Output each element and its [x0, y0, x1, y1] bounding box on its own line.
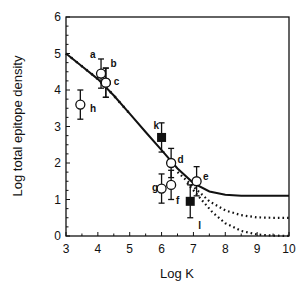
- point-label: f: [176, 195, 180, 206]
- filled-square-marker: [186, 197, 195, 206]
- curve-model-dotted-low: [187, 183, 289, 236]
- y-tick-label: 5: [54, 47, 61, 61]
- chart: 3456789100123456 abchkdgfel Log K Log to…: [0, 0, 303, 294]
- open-circle-marker: [167, 180, 176, 189]
- x-tick-label: 5: [126, 242, 133, 256]
- filled-square-marker: [157, 133, 166, 142]
- data-point-d: d: [167, 148, 184, 177]
- data-point-h: h: [76, 90, 96, 119]
- x-tick-label: 7: [190, 242, 197, 256]
- data-point-g: g: [152, 174, 166, 203]
- point-label: l: [198, 220, 201, 231]
- x-tick-label: 9: [254, 242, 261, 256]
- open-circle-marker: [167, 159, 176, 168]
- x-axis-title: Log K: [160, 266, 194, 281]
- open-circle-marker: [157, 184, 166, 193]
- y-tick-label: 3: [54, 120, 61, 134]
- axes: 3456789100123456: [54, 10, 296, 256]
- point-label: b: [111, 58, 117, 69]
- x-tick-label: 4: [95, 242, 102, 256]
- y-tick-label: 2: [54, 156, 61, 170]
- y-tick-label: 1: [54, 193, 61, 207]
- points: abchkdgfel: [76, 49, 209, 232]
- point-label: e: [203, 171, 209, 182]
- point-label: d: [178, 154, 184, 165]
- x-tick-label: 6: [158, 242, 165, 256]
- y-tick-label: 6: [54, 10, 61, 24]
- x-tick-label: 3: [63, 242, 70, 256]
- open-circle-marker: [97, 69, 106, 78]
- x-tick-label: 8: [222, 242, 229, 256]
- open-circle-marker: [101, 78, 110, 87]
- point-label: h: [90, 103, 96, 114]
- point-label: k: [154, 120, 160, 131]
- y-tick-label: 0: [54, 229, 61, 243]
- curves: [66, 54, 289, 237]
- point-label: g: [152, 182, 158, 193]
- data-point-f: f: [167, 170, 180, 205]
- open-circle-marker: [76, 100, 85, 109]
- point-label: c: [114, 76, 120, 87]
- point-label: a: [90, 49, 96, 60]
- y-tick-label: 4: [54, 83, 61, 97]
- data-point-e: e: [192, 167, 209, 196]
- open-circle-marker: [192, 177, 201, 186]
- y-axis-title: Log total epitope density: [10, 55, 25, 196]
- x-tick-label: 10: [282, 242, 296, 256]
